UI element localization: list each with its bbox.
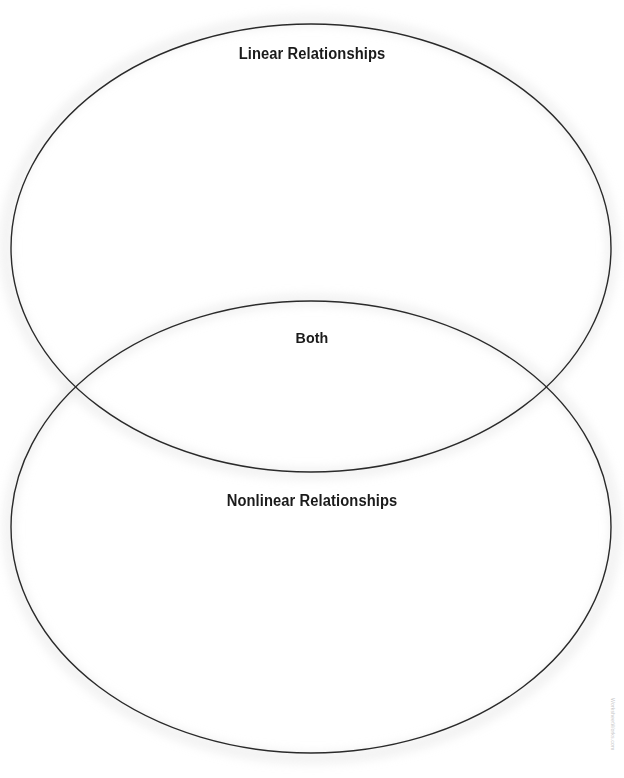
attribution-watermark: WorksheetWorks.com	[610, 698, 622, 774]
attribution-text: WorksheetWorks.com	[607, 698, 619, 750]
worksheet-page: Linear Relationships Both Nonlinear Rela…	[0, 0, 624, 778]
venn-label-bottom: Nonlinear Relationships	[25, 491, 599, 511]
venn-label-top: Linear Relationships	[25, 44, 599, 64]
scan-halo	[6, 20, 615, 758]
venn-diagram	[0, 0, 624, 778]
venn-label-intersection: Both	[25, 328, 599, 347]
